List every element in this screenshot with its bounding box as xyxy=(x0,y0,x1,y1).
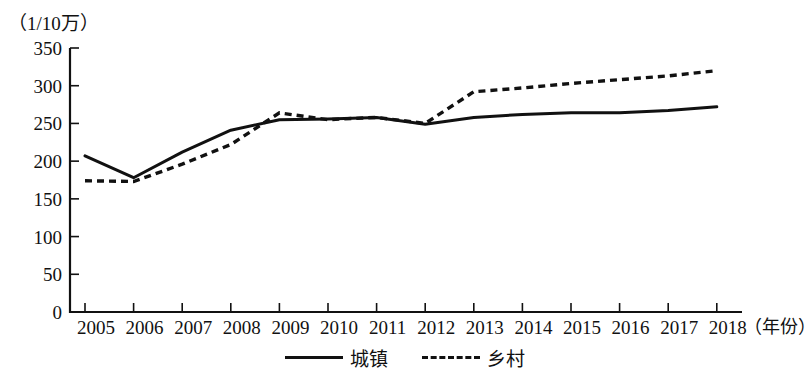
y-tick-label: 50 xyxy=(43,264,62,285)
axis-lines xyxy=(70,48,742,312)
x-tick-label: 2010 xyxy=(320,317,358,338)
series-line-rural xyxy=(85,71,717,182)
tick-mark-group xyxy=(70,48,717,312)
x-tick-label: 2018 xyxy=(709,317,747,338)
legend-label-rural: 乡村 xyxy=(487,344,525,371)
chart-legend: 城镇 乡村 xyxy=(0,344,809,371)
x-tick-label: 2014 xyxy=(514,317,553,338)
x-tick-label: 2008 xyxy=(223,317,261,338)
y-tick-label: 150 xyxy=(34,189,63,210)
y-tick-label: 200 xyxy=(34,151,63,172)
x-tick-label: 2006 xyxy=(126,317,164,338)
chart-svg: 050100150200250300350 200520062007200820… xyxy=(0,0,809,373)
legend-swatch-dashed-icon xyxy=(422,356,480,359)
y-tick-label: 350 xyxy=(34,38,63,59)
x-tick-label-group: 2005200620072008200920102011201220132014… xyxy=(77,317,747,338)
legend-item-rural: 乡村 xyxy=(422,344,525,371)
legend-item-urban: 城镇 xyxy=(285,344,388,371)
x-tick-label: 2005 xyxy=(77,317,115,338)
line-chart-figure: （1/10万） 050100150200250300350 2005200620… xyxy=(0,0,809,373)
x-tick-label: 2015 xyxy=(563,317,601,338)
x-tick-label: 2007 xyxy=(174,317,212,338)
x-tick-label: 2011 xyxy=(369,317,406,338)
y-tick-label: 300 xyxy=(34,76,63,97)
legend-swatch-solid-icon xyxy=(285,356,343,359)
series-line-urban xyxy=(85,107,717,178)
x-tick-label: 2013 xyxy=(466,317,504,338)
y-tick-label: 250 xyxy=(34,113,63,134)
y-tick-label-group: 050100150200250300350 xyxy=(34,38,63,323)
x-axis-title: （年份） xyxy=(744,312,809,338)
y-tick-label: 100 xyxy=(34,227,63,248)
x-tick-label: 2017 xyxy=(660,317,698,338)
legend-label-urban: 城镇 xyxy=(350,344,388,371)
x-tick-label: 2012 xyxy=(417,317,455,338)
x-tick-label: 2016 xyxy=(612,317,650,338)
plot-area: 050100150200250300350 200520062007200820… xyxy=(0,0,809,373)
x-tick-label: 2009 xyxy=(271,317,309,338)
y-tick-label: 0 xyxy=(53,302,63,323)
